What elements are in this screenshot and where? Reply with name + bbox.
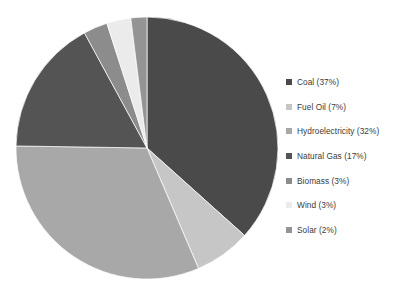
legend-swatch-wind	[286, 202, 292, 208]
pie-svg	[0, 0, 290, 293]
legend-item-label: Solar (2%)	[297, 226, 337, 234]
legend-item[interactable]: Hydroelectricity (32%)	[286, 119, 405, 144]
legend-swatch-solar	[286, 227, 292, 233]
legend-item-label: Coal (37%)	[297, 78, 339, 86]
legend-item[interactable]: Natural Gas (17%)	[286, 144, 405, 169]
legend-item[interactable]: Wind (3%)	[286, 193, 405, 218]
legend-item-label: Wind (3%)	[297, 201, 336, 209]
pie-chart-figure: Coal (37%)Fuel Oil (7%)Hydroelectricity …	[0, 0, 405, 293]
legend-item[interactable]: Biomass (3%)	[286, 168, 405, 193]
legend-item-label: Hydroelectricity (32%)	[297, 127, 379, 135]
legend-item-label: Fuel Oil (7%)	[297, 103, 346, 111]
legend-item-label: Natural Gas (17%)	[297, 152, 367, 160]
legend-item[interactable]: Coal (37%)	[286, 70, 405, 95]
legend-swatch-hydroelectricity	[286, 128, 292, 134]
legend-swatch-fuel-oil	[286, 104, 292, 110]
pie-slice-group	[16, 17, 278, 279]
pie-plot-area	[0, 0, 290, 293]
legend-swatch-coal	[286, 79, 292, 85]
legend-item[interactable]: Fuel Oil (7%)	[286, 95, 405, 120]
legend-swatch-natural-gas	[286, 153, 292, 159]
legend-swatch-biomass	[286, 178, 292, 184]
chart-legend: Coal (37%)Fuel Oil (7%)Hydroelectricity …	[286, 70, 405, 242]
legend-item-label: Biomass (3%)	[297, 177, 349, 185]
legend-item[interactable]: Solar (2%)	[286, 218, 405, 243]
